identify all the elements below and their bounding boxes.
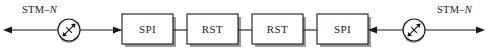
block-rst-right[interactable]: RST [252,14,306,47]
block-rst-right-label: RST [267,23,288,35]
right-port-label-suffix: N [464,4,473,15]
right-attenuator [403,19,425,42]
block-rst-left-label: RST [202,23,223,35]
right-port-label: STM–N [437,4,473,15]
block-spi-right[interactable]: SPI [317,14,371,47]
right-port-label-prefix: STM– [437,4,465,15]
left-port-label-suffix: N [49,4,58,15]
block-rst-left[interactable]: RST [187,14,241,47]
left-port-label: STM–N [22,4,58,15]
diagram-canvas: STM–N SPI RST RST SPI [0,0,488,56]
right-signal-path [368,26,485,33]
block-spi-right-label: SPI [334,23,351,35]
arrow-right-outbound-icon [476,26,485,33]
left-port-label-prefix: STM– [22,4,50,15]
optical-link-diagram: STM–N SPI RST RST SPI [0,0,488,56]
left-attenuator [58,19,80,42]
block-spi-left-label: SPI [139,23,156,35]
block-spi-left[interactable]: SPI [122,14,176,47]
arrow-left-outbound-icon [3,26,12,33]
arrow-into-left-spi-icon [113,26,122,33]
